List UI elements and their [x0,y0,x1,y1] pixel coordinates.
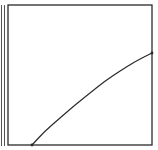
diagram-canvas [0,0,158,150]
diagram-svg [0,0,158,150]
curve-line [32,53,152,145]
curve-end-marker [151,52,154,55]
curve-start-marker [31,144,34,147]
plot-frame [8,5,152,145]
